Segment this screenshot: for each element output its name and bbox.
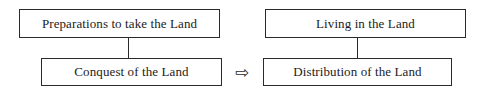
box-distribution-of-the-land: Distribution of the Land	[263, 58, 452, 86]
box-label: Living in the Land	[316, 17, 415, 31]
arrow-glyph: ⇨	[235, 64, 249, 81]
box-label: Preparations to take the Land	[42, 17, 197, 31]
box-conquest-of-the-land: Conquest of the Land	[41, 58, 222, 86]
hollow-right-arrow-icon: ⇨	[229, 60, 255, 84]
box-living-in-the-land: Living in the Land	[265, 9, 466, 38]
box-label: Conquest of the Land	[74, 65, 188, 79]
box-label: Distribution of the Land	[293, 65, 421, 79]
flow-diagram: Preparations to take the Land Conquest o…	[0, 0, 496, 94]
connector-line-right	[357, 38, 358, 58]
box-preparations-to-take-the-land: Preparations to take the Land	[19, 9, 220, 38]
connector-line-left	[128, 38, 129, 58]
